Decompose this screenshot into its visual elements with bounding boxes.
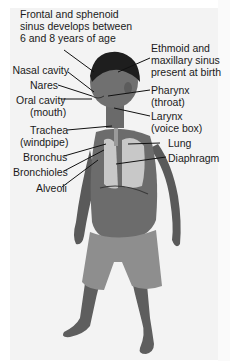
label-oral-cavity: Oral cavity (mouth): [16, 94, 66, 118]
label-diaphragm: Diaphragm: [168, 152, 219, 164]
label-line: Ethmoid and: [151, 42, 221, 54]
label-line: present at birth: [151, 66, 221, 78]
label-alveoli: Alveoli: [36, 182, 67, 194]
label-nares: Nares: [11, 79, 58, 91]
label-line: (windpipe): [20, 136, 68, 148]
label-frontal-sphenoid-sinus: Frontal and sphenoid sinus develops betw…: [20, 8, 132, 44]
label-larynx: Larynx (voice box): [151, 110, 202, 134]
label-line: 6 and 8 years of age: [20, 32, 132, 44]
label-line: (voice box): [151, 122, 202, 134]
label-line: Pharynx: [151, 84, 190, 96]
label-trachea: Trachea (windpipe): [20, 124, 68, 148]
label-line: (throat): [151, 96, 190, 108]
label-line: maxillary sinus: [151, 54, 221, 66]
label-line: Larynx: [151, 110, 202, 122]
label-line: sinus develops between: [20, 20, 132, 32]
label-line: Oral cavity: [16, 94, 66, 106]
label-nasal-cavity: Nasal cavity: [11, 64, 69, 76]
label-ethmoid-maxillary-sinus: Ethmoid and maxillary sinus present at b…: [151, 42, 221, 78]
label-line: Frontal and sphenoid: [20, 8, 132, 20]
label-pharynx: Pharynx (throat): [151, 84, 190, 108]
label-line: Trachea: [20, 124, 68, 136]
label-bronchus: Bronchus: [23, 151, 67, 163]
label-line: (mouth): [16, 106, 66, 118]
label-lung: Lung: [168, 137, 191, 149]
label-bronchioles: Bronchioles: [13, 166, 68, 178]
